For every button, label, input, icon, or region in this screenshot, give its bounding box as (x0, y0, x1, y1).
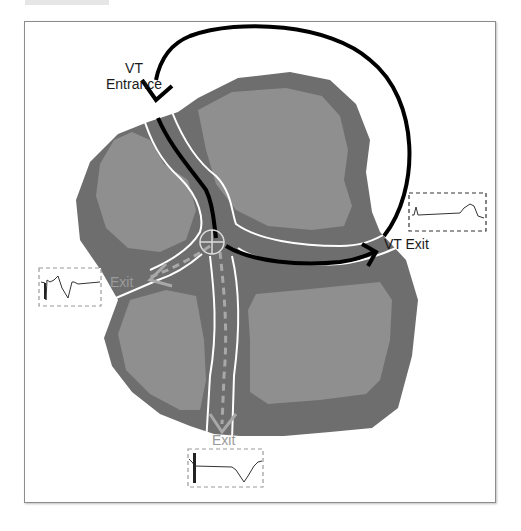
exit-bottom-label: Exit (212, 432, 235, 448)
egm-bottom-exit (188, 449, 263, 487)
exit-left-label: Exit (110, 274, 133, 290)
egm-left-exit (39, 268, 101, 306)
vt-entrance-label-line2: Entrance (104, 76, 164, 92)
island-lower-left (118, 290, 206, 410)
vt-circuit-diagram (0, 0, 521, 531)
vt-entrance-label: VT Entrance (104, 60, 164, 92)
ablation-target-crosshair-icon (200, 230, 224, 254)
vt-exit-label: VT Exit (384, 236, 429, 252)
island-lower-right (248, 282, 392, 404)
vt-entrance-label-line1: VT (104, 60, 164, 76)
egm-vt-exit (409, 193, 486, 231)
